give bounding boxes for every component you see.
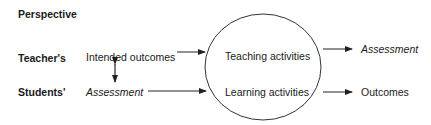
output-outcomes: Outcomes: [361, 86, 409, 98]
activity-learning: Learning activities: [225, 86, 309, 98]
activities-ellipse: [205, 14, 321, 120]
row-label-teachers: Teacher's: [18, 52, 66, 64]
activity-teaching: Teaching activities: [225, 50, 310, 62]
input-assessment: Assessment: [86, 86, 143, 98]
heading-perspective: Perspective: [18, 8, 77, 20]
row-label-students: Students': [18, 86, 65, 98]
input-intended-outcomes: Intended outcomes: [86, 51, 175, 63]
output-assessment: Assessment: [361, 43, 418, 55]
